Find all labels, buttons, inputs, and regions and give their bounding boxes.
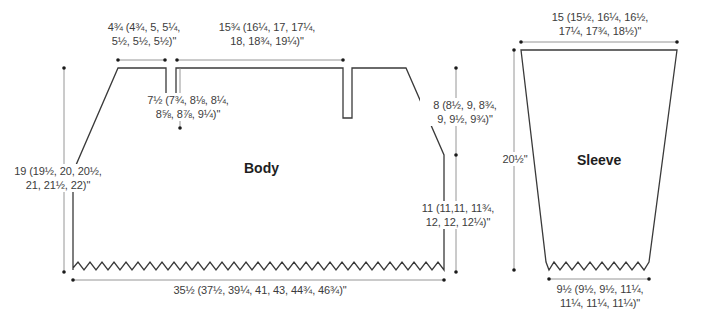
- armhole-depth-label: 8 (8½, 9, 8¾, 9, 9½, 9¾)": [420, 98, 510, 126]
- body-title: Body: [244, 160, 279, 176]
- back-neck-width-label: 15¾ (16¼, 17, 17¼, 18, 18¾, 19¼)": [205, 20, 329, 48]
- neck-slit-depth-label: 7½ (7¾, 8⅛, 8¼, 8⅝, 8⅞, 9¼)": [140, 93, 236, 121]
- sleeve-top-width-label: 15 (15½, 16¼, 16½, 17¼, 17¾, 18½)": [548, 10, 652, 38]
- hem-width-label: 35½ (37½, 39¼, 41, 43, 44¾, 46¾)": [160, 283, 360, 297]
- total-length-label: 19 (19½, 20, 20½, 21, 21½, 22)": [6, 164, 110, 192]
- sleeve-length-label: 20½": [502, 152, 528, 166]
- sleeve-title: Sleeve: [577, 152, 621, 168]
- shoulder-width-label: 4¾ (4¾, 5, 5¼, 5½, 5½, 5½)": [96, 20, 192, 48]
- sleeve-cuff-width-label: 9½ (9½, 9½, 11¼, 11¼, 11¼, 11¼)": [548, 282, 652, 310]
- side-length-label: 11 (11,11, 11¾, 12, 12, 12¼)": [408, 201, 508, 229]
